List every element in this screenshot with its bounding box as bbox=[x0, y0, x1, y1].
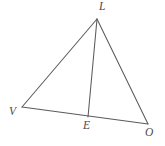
segment-lo bbox=[97, 19, 148, 124]
segment-vl bbox=[22, 19, 97, 107]
vertex-label-o: O bbox=[145, 127, 153, 139]
vertex-label-e: E bbox=[83, 120, 90, 132]
segment-le-cevian bbox=[88, 19, 97, 117]
vertex-label-l: L bbox=[99, 1, 105, 13]
vertex-label-v: V bbox=[9, 106, 16, 118]
geometry-figure: L V E O bbox=[0, 0, 165, 146]
